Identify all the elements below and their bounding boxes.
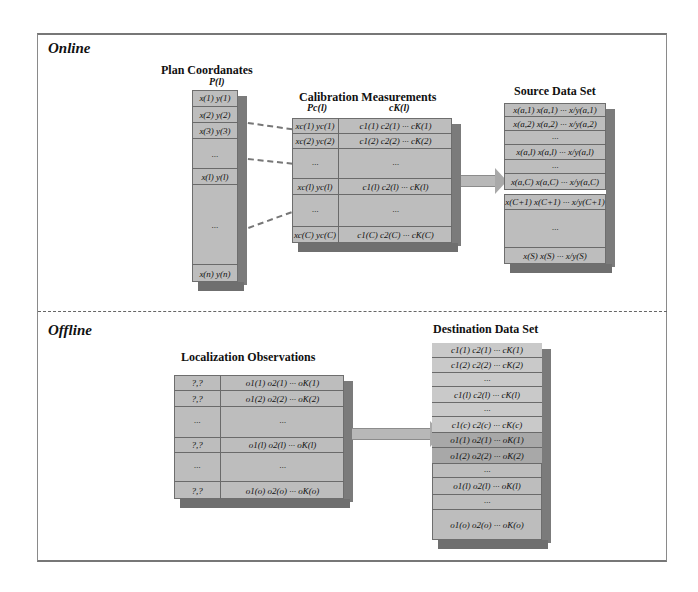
destination-row: o1(l) o2(l) ··· oK(l) (432, 478, 542, 495)
source-row: ··· (504, 160, 606, 174)
plan-row: x(l) y(l) (192, 169, 238, 185)
plan-row: x(3) y(3) (192, 123, 238, 139)
source-row: x(a,2) x(a,2) ··· x/y(a,2) (504, 117, 606, 131)
calibration-row: ··· ··· (292, 149, 452, 179)
calibration-row: xc(C) yc(C) c1(C) c2(C) ··· cK(C) (292, 227, 452, 243)
destination-row: ··· (432, 373, 542, 387)
online-offline-divider (38, 311, 667, 312)
source-data-set-box: x(a,1) x(a,1) ··· x/y(a,1) x(a,2) x(a,2)… (504, 103, 606, 264)
destination-row: o1(2) o2(2) ··· oK(2) (432, 448, 542, 464)
observation-row: ··· ··· (174, 453, 344, 482)
localization-observations-title: Localization Observations (181, 350, 315, 365)
calibration-label-left: Pc(l) (307, 102, 327, 113)
destination-row: ··· (432, 403, 542, 417)
plan-row: x(n) y(n) (192, 265, 238, 282)
destination-row: c1(l) c2(l) ··· cK(l) (432, 387, 542, 403)
destination-row: c1(c) c2(c) ··· cK(c) (432, 417, 542, 433)
observation-row: ?,? o1(2) o2(2) ··· oK(2) (174, 391, 344, 407)
observation-row: ?,? o1(l) o2(l) ··· oK(l) (174, 438, 344, 453)
destination-row: ··· (432, 495, 542, 510)
observation-row: ?,? o1(1) o2(1) ··· oK(1) (174, 375, 344, 391)
arrow-right-icon (461, 175, 495, 187)
plan-coordinates-title: Plan Coordanates (161, 63, 253, 78)
destination-data-set-box: c1(1) c2(1) ··· cK(1) c1(2) c2(2) ··· cK… (432, 343, 542, 540)
destination-row: ··· (432, 464, 542, 478)
destination-row: c1(2) c2(2) ··· cK(2) (432, 358, 542, 373)
source-row: x(a,l) x(a,l) ··· x/y(a,l) (504, 145, 606, 160)
destination-row: o1(1) o2(1) ··· oK(1) (432, 433, 542, 448)
calibration-label-right: cK(l) (389, 102, 410, 113)
plan-coordinates-label: P(l) (209, 76, 225, 87)
calibration-row: ··· ··· (292, 195, 452, 227)
arrow-right-icon (352, 428, 430, 440)
source-row: ··· (504, 131, 606, 145)
source-row: x(a,1) x(a,1) ··· x/y(a,1) (504, 103, 606, 117)
observation-row: ··· ··· (174, 407, 344, 438)
calibration-measurements-box: xc(1) yc(1) c1(1) c2(1) ··· cK(1) xc(2) … (292, 118, 452, 243)
source-row: x(a,C) x(a,C) ··· x/y(a,C) (504, 174, 606, 190)
destination-row: c1(1) c2(1) ··· cK(1) (432, 343, 542, 358)
destination-data-set-title: Destination Data Set (433, 322, 538, 337)
source-row: ··· (504, 210, 606, 248)
localization-observations-box: ?,? o1(1) o2(1) ··· oK(1) ?,? o1(2) o2(2… (174, 375, 344, 499)
calibration-row: xc(l) yc(l) c1(l) c2(l) ··· cK(l) (292, 179, 452, 195)
calibration-row: xc(2) yc(2) c1(2) c2(2) ··· cK(2) (292, 134, 452, 149)
calibration-row: xc(1) yc(1) c1(1) c2(1) ··· cK(1) (292, 118, 452, 134)
source-row: x(C+1) x(C+1) ··· x/y(C+1) (504, 195, 606, 210)
source-row: x(S) x(S) ··· x/y(S) (504, 248, 606, 264)
online-section-title: Online (48, 40, 91, 57)
source-data-set-title: Source Data Set (514, 84, 596, 99)
offline-section-title: Offline (48, 322, 92, 339)
plan-row: ... (192, 139, 238, 169)
plan-row: x(1) y(1) (192, 90, 238, 107)
plan-coordinates-box: x(1) y(1) x(2) y(2) x(3) y(3) ... x(l) y… (192, 90, 238, 282)
plan-row: x(2) y(2) (192, 107, 238, 123)
observation-row: ?,? o1(o) o2(o) ··· oK(o) (174, 482, 344, 499)
destination-row: o1(o) o2(o) ··· oK(o) (432, 510, 542, 540)
plan-row: ... (192, 185, 238, 265)
